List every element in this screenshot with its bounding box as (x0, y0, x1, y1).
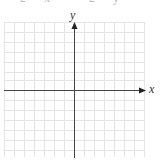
x-axis-label: x (149, 82, 154, 97)
coordinate-grid (0, 0, 167, 163)
y-axis-label: y (70, 8, 75, 23)
y-axis-arrow-icon (72, 22, 78, 29)
